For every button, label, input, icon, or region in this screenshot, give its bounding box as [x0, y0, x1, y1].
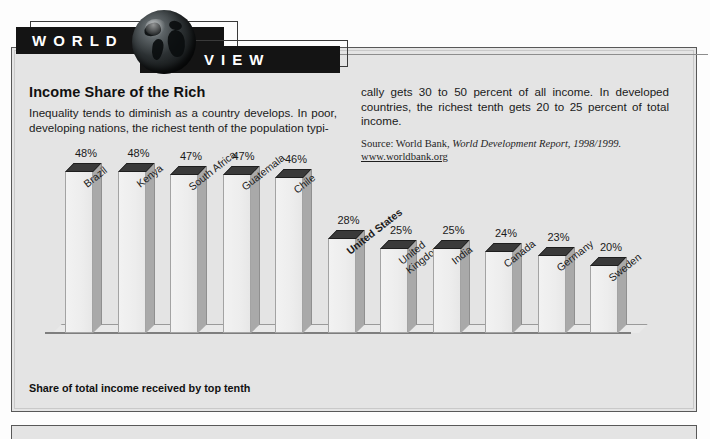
globe-highlight — [145, 19, 167, 36]
lower-panel — [11, 425, 697, 439]
world-view-banner: WORLD VIEW — [8, 8, 338, 74]
chart-bar: 28%United States — [328, 239, 356, 333]
chart-bar-side-face — [303, 169, 312, 333]
chart-bar: 48%Kenya — [118, 172, 146, 333]
article-body-left: Inequality tends to diminish as a countr… — [29, 106, 337, 135]
chart-bar: 46%Chile — [275, 178, 303, 333]
chart-bar: 23%Germany — [538, 256, 566, 333]
source-note: Source: World Bank, World Development Re… — [361, 137, 669, 163]
chart-bar: 25%India — [433, 249, 461, 333]
banner-rule — [338, 54, 708, 55]
article-column-right: cally gets 30 to 50 percent of all incom… — [361, 106, 669, 163]
chart-plot-area: 48%Brazil48%Kenya47%South Africa47%Guate… — [29, 165, 679, 333]
chart-bar-value-label: 25% — [431, 224, 477, 236]
source-url-link[interactable]: www.worldbank.org — [361, 150, 669, 163]
chart-caption: Share of total income received by top te… — [29, 382, 250, 394]
globe-landmass — [150, 38, 164, 61]
chart-bar-value-label: 28% — [326, 214, 372, 226]
chart-bar-front-face — [223, 175, 251, 333]
globe-landmass — [168, 20, 183, 32]
chart-bar-value-label: 24% — [483, 227, 529, 239]
banner-word-view: VIEW — [204, 46, 270, 73]
page-background: WORLD VIEW Income Share of the Rich Ineq… — [0, 0, 710, 439]
chart-bar-front-face — [65, 172, 93, 333]
globe-icon — [132, 10, 196, 74]
chart-bar-front-face — [118, 172, 146, 333]
article-body-right: cally gets 30 to 50 percent of all incom… — [361, 85, 669, 129]
chart-bar-front-face — [170, 175, 198, 333]
chart-bar: 48%Brazil — [65, 172, 93, 333]
source-prefix: Source: World Bank, — [361, 138, 452, 149]
banner-word-world: WORLD — [32, 27, 124, 54]
chart-bar-value-label: 25% — [378, 224, 424, 236]
chart-bar: 47%Guatemala — [223, 175, 251, 333]
source-publication: World Development Report, 1998/1999. — [452, 138, 621, 149]
chart-bar: 47%South Africa — [170, 175, 198, 333]
article-column-left: Inequality tends to diminish as a countr… — [29, 106, 337, 163]
chart-bar-side-face — [93, 163, 102, 333]
chart-bar-side-face — [251, 166, 260, 333]
article-columns: Inequality tends to diminish as a countr… — [29, 106, 671, 163]
chart-bar-side-face — [146, 163, 155, 333]
globe-landmass — [167, 29, 187, 58]
chart-bar: 25%UnitedKingdom — [380, 249, 408, 333]
chart-bar-front-face — [275, 178, 303, 333]
chart-bar: 20%Sweden — [590, 266, 618, 333]
chart-bar: 24%Canada — [485, 252, 513, 333]
bar-chart: 48%Brazil48%Kenya47%South Africa47%Guate… — [29, 165, 679, 395]
article: Income Share of the Rich Inequality tend… — [29, 84, 671, 163]
chart-bar-value-label: 20% — [588, 241, 634, 253]
chart-bar-side-face — [198, 166, 207, 333]
chart-bar-value-label: 23% — [536, 231, 582, 243]
